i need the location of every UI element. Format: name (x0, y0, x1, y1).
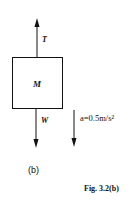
subfigure-label: (b) (28, 165, 39, 175)
weight-arrow (34, 108, 39, 148)
tension-label: T (42, 35, 47, 44)
weight-label: W (41, 116, 48, 125)
acceleration-label: a=0.5m/s² (80, 113, 114, 123)
tension-arrow (35, 18, 40, 57)
diagram-canvas (0, 0, 137, 202)
mass-label: M (33, 79, 41, 89)
figure-caption: Fig. 3.2(b) (84, 184, 119, 193)
acceleration-arrow (72, 110, 77, 147)
